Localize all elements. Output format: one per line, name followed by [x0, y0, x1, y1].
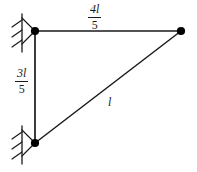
- fraction-denominator: 5: [15, 82, 28, 96]
- support-hatch-mark: [12, 132, 22, 139]
- member-diagonal: [35, 31, 181, 143]
- node-bottom-left: [31, 139, 39, 147]
- node-top-left: [31, 27, 39, 35]
- truss-members: [35, 31, 181, 143]
- fraction-numerator: 4l: [88, 3, 101, 18]
- support-hatch-mark: [12, 40, 22, 47]
- dimension-label-top-chord: 4l 5: [88, 3, 101, 31]
- node-top-right: [177, 27, 185, 35]
- dimension-label-vertical: 3l 5: [15, 67, 28, 95]
- support-hatch-mark: [12, 30, 22, 37]
- fraction-denominator: 5: [88, 18, 101, 32]
- fraction-four-fifths-l: 4l 5: [88, 3, 101, 31]
- fraction-numerator: 3l: [15, 67, 28, 82]
- support-hatch-mark: [12, 142, 22, 149]
- fraction-three-fifths-l: 3l 5: [15, 67, 28, 95]
- dimension-label-diagonal: l: [108, 96, 111, 108]
- support-hatch-mark: [12, 152, 22, 159]
- support-hatch-mark: [12, 20, 22, 27]
- truss-diagram-figure: 4l 5 3l 5 l: [0, 0, 197, 172]
